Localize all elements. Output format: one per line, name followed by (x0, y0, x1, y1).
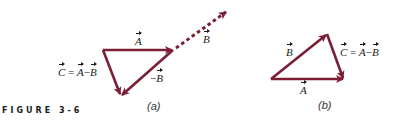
vector-b-symbol: B (203, 33, 210, 45)
label-c-equation: C = A−B (58, 66, 97, 78)
panel-b-vectors (271, 34, 343, 79)
vector-c-symbol: C (58, 66, 65, 78)
vector-a-symbol: A (359, 46, 366, 58)
vector-b-symbol: B (286, 46, 293, 58)
vector-a-symbol: A (300, 84, 307, 96)
label-vector-neg-b: −B (150, 72, 163, 84)
label-vector-a: A (300, 84, 307, 96)
vector-a-symbol: A (135, 35, 142, 47)
vector-neg-b-arrow (122, 50, 173, 95)
vector-b-dotted-arrow (176, 12, 226, 48)
panel-b-caption: (b) (318, 99, 331, 111)
vector-c-arrow (103, 50, 120, 94)
label-vector-a: A (135, 35, 142, 47)
vector-c-symbol: C (340, 46, 347, 58)
panel-a-caption: (a) (147, 100, 160, 112)
equals-sign: = (347, 46, 359, 58)
label-c-equation: C = A−B (340, 46, 379, 58)
vector-b-symbol: B (372, 46, 379, 58)
vector-a-symbol: A (77, 66, 84, 78)
vector-b-symbol: B (156, 72, 163, 84)
panel-a-vectors (103, 12, 226, 95)
label-vector-b: B (286, 46, 293, 58)
equals-sign: = (65, 66, 77, 78)
vector-b-symbol: B (90, 66, 97, 78)
vector-b-arrow (271, 35, 326, 79)
figure-label: FIGURE 3-6 (2, 106, 82, 115)
label-vector-b: B (203, 33, 210, 45)
